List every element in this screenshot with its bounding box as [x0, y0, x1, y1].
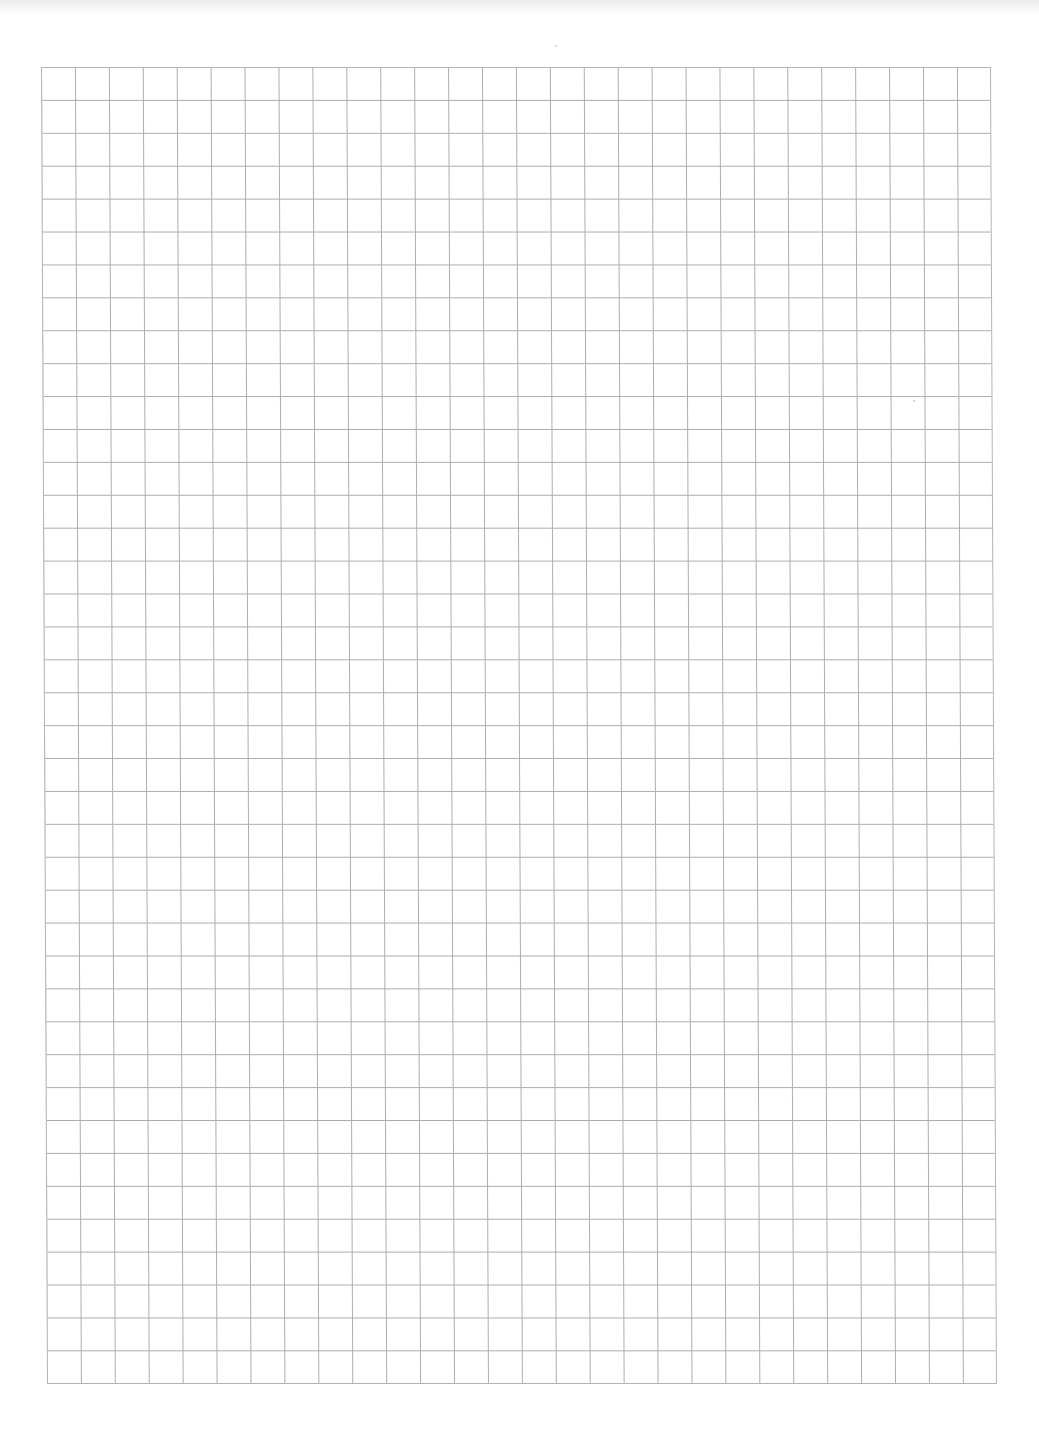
grid-paper — [41, 67, 997, 1384]
scan-speck — [555, 45, 557, 47]
scan-edge-shadow — [0, 0, 1039, 16]
scan-speck — [913, 400, 915, 402]
scanned-page — [0, 0, 1039, 1453]
